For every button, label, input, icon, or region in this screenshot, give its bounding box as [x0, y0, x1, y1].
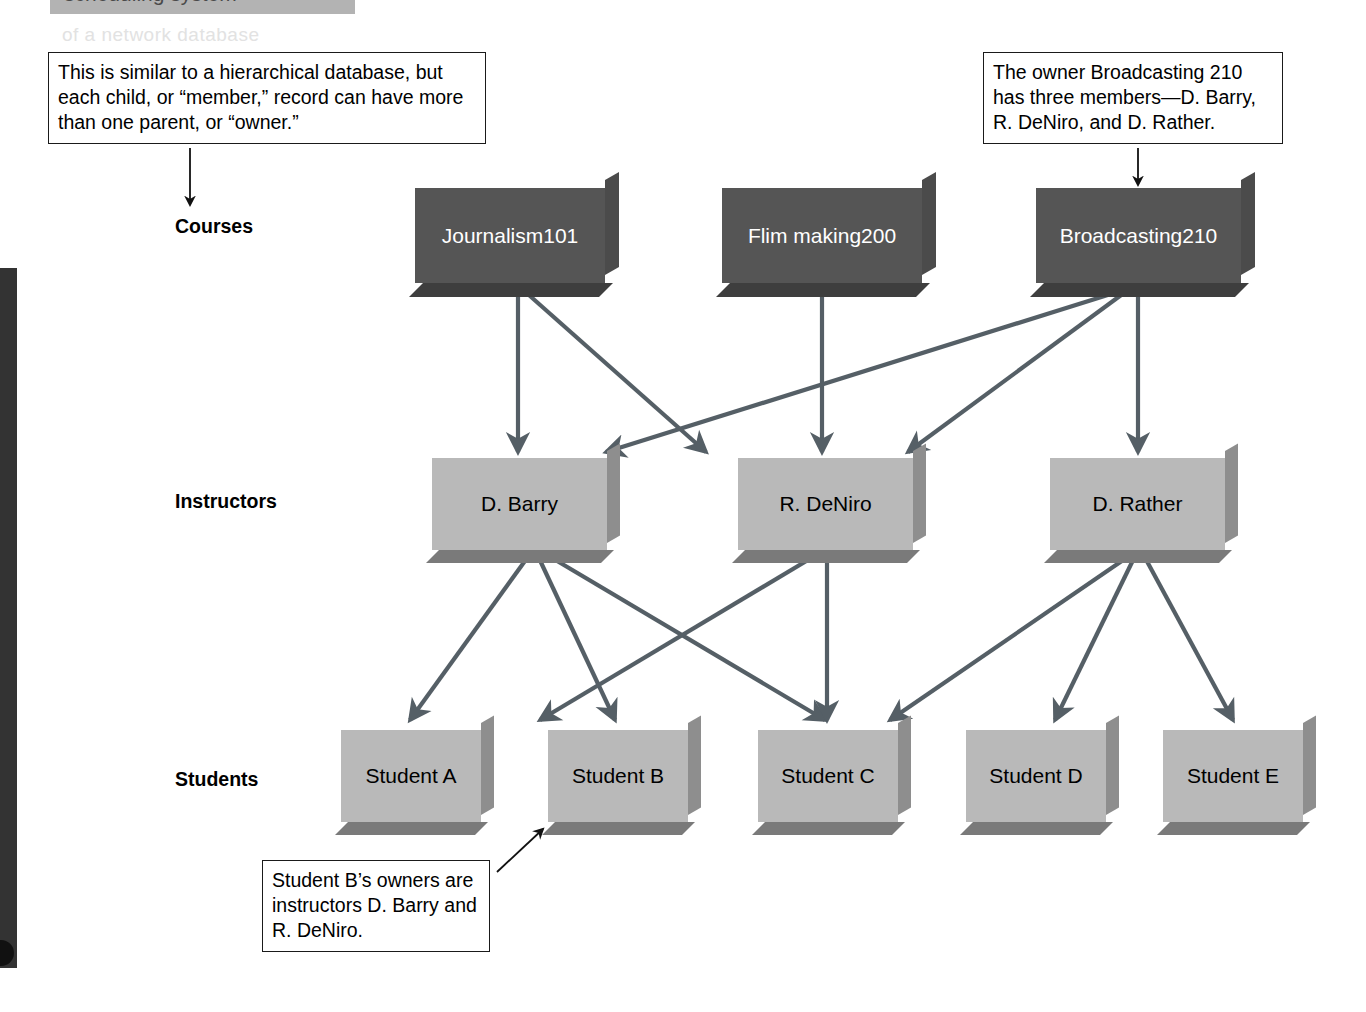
edge-rather-studentC [890, 554, 1132, 720]
edge-broadcasting-barry [606, 288, 1130, 452]
node-side-bottom [335, 822, 488, 835]
node-side-right [922, 172, 936, 275]
edge-rather-studentE [1143, 554, 1233, 720]
node-side-right [1225, 443, 1238, 543]
node-side-bottom [426, 550, 614, 563]
callout-hierarchy-note: This is similar to a hierarchical databa… [48, 52, 486, 144]
node-r-deniro-label: R. DeNiro [738, 458, 913, 550]
node-side-right [481, 715, 494, 815]
pointer-student-b-note [497, 829, 543, 872]
node-side-bottom [542, 822, 695, 835]
node-student-a-label: Student A [341, 730, 481, 822]
node-line-2: 101 [543, 223, 578, 249]
node-line-1: Broadcasting [1060, 223, 1183, 249]
node-d-barry-label: D. Barry [432, 458, 607, 550]
node-side-bottom [1044, 550, 1232, 563]
page-edge-rule [0, 268, 17, 968]
row-label-instructors: Instructors [175, 490, 277, 513]
node-side-bottom [716, 283, 930, 297]
node-student-a[interactable]: Student A [341, 730, 481, 822]
node-student-e[interactable]: Student E [1163, 730, 1303, 822]
node-side-bottom [752, 822, 905, 835]
node-side-right [913, 443, 926, 543]
faded-caption-text: of a network database [62, 24, 259, 46]
node-side-right [898, 715, 911, 815]
callout-student-b-note: Student B’s owners are instructors D. Ba… [262, 860, 490, 952]
node-student-d[interactable]: Student D [966, 730, 1106, 822]
node-d-barry[interactable]: D. Barry [432, 458, 607, 550]
node-d-rather[interactable]: D. Rather [1050, 458, 1225, 550]
node-side-bottom [960, 822, 1113, 835]
node-student-b-label: Student B [548, 730, 688, 822]
node-broadcasting-210[interactable]: Broadcasting210 [1036, 188, 1241, 283]
node-side-right [1106, 715, 1119, 815]
node-flim-making-200[interactable]: Flim making200 [722, 188, 922, 283]
node-student-c-label: Student C [758, 730, 898, 822]
node-student-b[interactable]: Student B [548, 730, 688, 822]
diagram-page: scheduling system of a network database … [0, 0, 1366, 1012]
node-side-right [605, 172, 619, 275]
callout-owner-note: The owner Broadcasting 210 has three mem… [983, 52, 1283, 144]
edge-barry-studentB [537, 554, 615, 720]
node-side-bottom [1030, 283, 1249, 297]
node-r-deniro[interactable]: R. DeNiro [738, 458, 913, 550]
node-line-2: 200 [861, 223, 896, 249]
node-side-right [1303, 715, 1316, 815]
node-line-2: 210 [1182, 223, 1217, 249]
edge-journalism-deniro [521, 288, 706, 452]
section-banner: scheduling system [50, 0, 355, 14]
node-student-d-label: Student D [966, 730, 1106, 822]
edge-barry-studentC [542, 552, 825, 720]
node-student-e-label: Student E [1163, 730, 1303, 822]
node-side-right [688, 715, 701, 815]
node-side-bottom [409, 283, 613, 297]
node-side-bottom [732, 550, 920, 563]
node-journalism-101[interactable]: Journalism101 [415, 188, 605, 283]
node-d-rather-label: D. Rather [1050, 458, 1225, 550]
edge-barry-studentA [410, 554, 530, 720]
node-side-right [607, 443, 620, 543]
section-banner-label: scheduling system [64, 0, 237, 6]
row-label-students: Students [175, 768, 258, 791]
edge-broadcasting-deniro [908, 290, 1128, 452]
node-side-right [1241, 172, 1255, 275]
node-line-1: Flim making [748, 223, 861, 249]
node-broadcasting-210-label: Broadcasting210 [1036, 188, 1241, 283]
edge-deniro-studentB [540, 554, 818, 720]
edge-rather-studentD [1055, 554, 1136, 720]
node-journalism-101-label: Journalism101 [415, 188, 605, 283]
row-label-courses: Courses [175, 215, 253, 238]
node-side-bottom [1157, 822, 1310, 835]
node-student-c[interactable]: Student C [758, 730, 898, 822]
node-line-1: Journalism [442, 223, 544, 249]
node-flim-making-200-label: Flim making200 [722, 188, 922, 283]
